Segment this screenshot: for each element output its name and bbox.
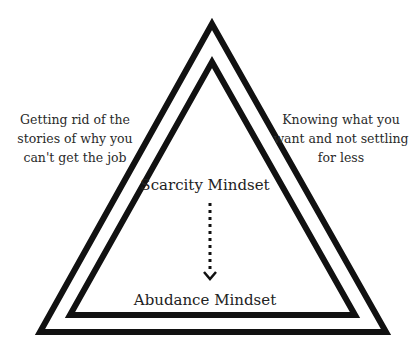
arrow-head-icon xyxy=(204,272,216,279)
abundance-mindset-label: Abudance Mindset xyxy=(105,291,305,309)
scarcity-mindset-label: Scarcity Mindset xyxy=(105,176,305,194)
right-side-label: Knowing what you want and not settling f… xyxy=(272,110,410,167)
left-side-label: Getting rid of the stories of why you ca… xyxy=(0,110,150,167)
